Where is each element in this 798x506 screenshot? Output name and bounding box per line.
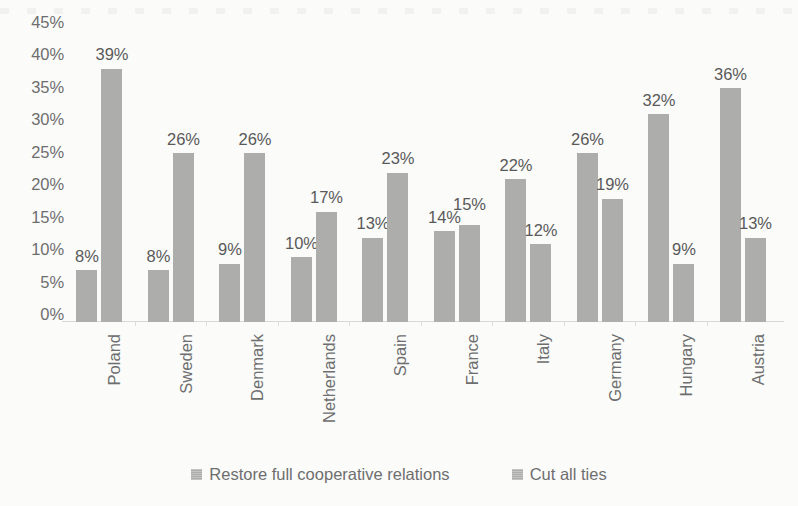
bar-group: 8%26% [148,30,194,322]
bar-austria-series2 [745,238,766,322]
bar-value-label: 22% [496,157,536,174]
bar-hungary-series2 [673,264,694,322]
x-axis-label-poland: Poland [106,334,123,385]
chart-legend: Restore full cooperative relationsCut al… [0,466,798,483]
legend-item[interactable]: Cut all ties [512,466,607,483]
bar-group: 14%15% [434,30,480,322]
x-axis-label-hungary: Hungary [678,334,695,396]
square-swatch-icon [191,469,202,480]
x-axis-tick [635,321,636,326]
x-axis-tick [349,321,350,326]
bar-value-label: 23% [378,150,418,167]
y-axis-tick-label: 35% [18,79,64,96]
x-axis-tick [707,321,708,326]
bar-denmark-series1 [219,264,240,322]
bar-sweden-series2 [173,153,194,322]
x-axis-tick [421,321,422,326]
legend-label: Cut all ties [530,466,607,483]
bar-france-series1 [434,231,455,322]
bar-italy-series1 [505,179,526,322]
bar-group: 9%26% [219,30,265,322]
bar-value-label: 15% [450,196,490,213]
x-axis-label-sweden: Sweden [178,334,195,394]
bar-denmark-series2 [244,153,265,322]
bar-netherlands-series2 [316,212,337,322]
bar-france-series2 [459,225,480,322]
bar-chart: 45%40%35%30%25%20%15%10%5%0% 8%39%8%26%9… [0,0,798,506]
bar-poland-series2 [101,69,122,322]
bar-hungary-series1 [648,114,669,322]
x-axis-tick [564,321,565,326]
bar-value-label: 36% [711,66,751,83]
plot-area: 8%39%8%26%9%26%10%17%13%23%14%15%22%12%2… [62,30,780,322]
x-axis-tick [206,321,207,326]
y-axis-tick-label: 0% [18,306,64,323]
square-swatch-icon [512,469,523,480]
bar-germany-series2 [602,199,623,322]
bar-group: 10%17% [291,30,337,322]
y-axis-tick-label: 20% [18,176,64,193]
bar-group: 36%13% [720,30,766,322]
bar-value-label: 17% [307,189,347,206]
legend-label: Restore full cooperative relations [209,466,449,483]
x-axis-label-italy: Italy [535,334,552,364]
bar-group: 22%12% [505,30,551,322]
bar-group: 8%39% [76,30,122,322]
bar-group: 32%9% [648,30,694,322]
y-axis-tick-label: 30% [18,111,64,128]
bar-italy-series2 [530,244,551,322]
bar-poland-series1 [76,270,97,322]
scan-artifact [0,8,798,14]
x-axis-label-austria: Austria [750,334,767,385]
bar-value-label: 12% [521,222,561,239]
legend-item[interactable]: Restore full cooperative relations [191,466,449,483]
y-axis-tick-label: 15% [18,209,64,226]
y-axis: 45%40%35%30%25%20%15%10%5%0% [18,22,64,327]
y-axis-tick-label: 25% [18,144,64,161]
y-axis-tick-label: 5% [18,274,64,291]
bar-spain-series1 [362,238,383,322]
bar-value-label: 9% [664,241,704,258]
y-axis-tick-label: 40% [18,46,64,63]
x-axis-label-germany: Germany [607,334,624,402]
bar-spain-series2 [387,173,408,322]
x-axis-label-denmark: Denmark [249,334,266,401]
bar-value-label: 19% [593,176,633,193]
bar-value-label: 26% [568,131,608,148]
bar-sweden-series1 [148,270,169,322]
x-axis-label-netherlands: Netherlands [321,334,338,423]
bar-value-label: 39% [92,46,132,63]
y-axis-tick-label: 10% [18,241,64,258]
x-axis-tick [135,321,136,326]
x-axis-tick [492,321,493,326]
x-axis-label-france: France [464,334,481,385]
bar-value-label: 26% [235,131,275,148]
x-axis-tick [278,321,279,326]
bar-value-label: 13% [736,215,776,232]
bar-netherlands-series1 [291,257,312,322]
bar-group: 13%23% [362,30,408,322]
bar-value-label: 32% [639,92,679,109]
x-axis-label-spain: Spain [392,334,409,376]
bar-austria-series1 [720,88,741,322]
bar-group: 26%19% [577,30,623,322]
bar-value-label: 26% [164,131,204,148]
y-axis-tick-label: 45% [18,14,64,31]
